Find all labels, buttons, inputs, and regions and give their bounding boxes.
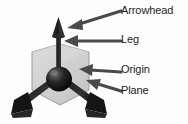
axis-diagram-graphic (0, 0, 188, 124)
label-plane: Plane (121, 85, 149, 96)
label-origin: Origin (121, 64, 150, 75)
pointer-arrow-plane (86, 79, 121, 91)
label-leg: Leg (121, 34, 139, 45)
label-arrowhead: Arrowhead (121, 5, 173, 16)
diagram-canvas: Arrowhead Leg Origin Plane (0, 0, 188, 124)
pointer-arrow-arrowhead (67, 11, 121, 30)
pointer-arrow-leg (64, 35, 121, 47)
origin-sphere (46, 67, 72, 92)
